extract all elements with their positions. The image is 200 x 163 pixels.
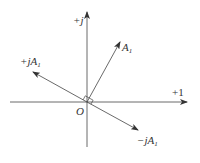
phasor-diagram: +j +1 O A1 +jA1 −jA1 [0,0,200,163]
phasor-a1 [87,42,120,102]
phasor-a1-label: A1 [121,41,132,55]
real-axis-label: +1 [172,86,184,98]
phasor-minus-ja1 [87,102,138,130]
phasor-plus-ja1 [33,72,87,102]
phasor-plus-ja1-label: +jA1 [20,55,41,69]
imaginary-axis-label: +j [73,14,83,26]
phasor-minus-ja1-label: −jA1 [137,134,158,148]
origin-label: O [76,105,84,117]
